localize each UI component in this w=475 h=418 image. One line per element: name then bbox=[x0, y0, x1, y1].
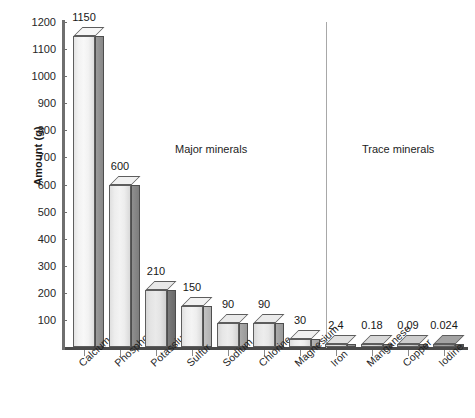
x-axis-label-iron: Iron bbox=[328, 347, 350, 368]
bar-sodium bbox=[217, 314, 239, 347]
bar-phosphorus bbox=[109, 176, 131, 348]
bar-front-face bbox=[217, 323, 239, 347]
bar-front-face bbox=[181, 306, 203, 347]
bar-value-label: 0.024 bbox=[416, 319, 472, 331]
bar-top-face bbox=[109, 176, 140, 185]
y-tick-label: 600 bbox=[18, 179, 56, 191]
bar-side-face bbox=[95, 36, 104, 347]
bar-side-face bbox=[347, 344, 356, 347]
bar-calcium bbox=[73, 27, 95, 347]
bar-front-face bbox=[145, 290, 167, 347]
bar-value-label: 150 bbox=[164, 281, 220, 293]
y-tick-label: 1000 bbox=[18, 70, 56, 82]
bar-iron bbox=[325, 335, 347, 347]
bar-top-face bbox=[325, 335, 356, 344]
bar-front-face bbox=[325, 344, 347, 347]
bar-top-face bbox=[73, 27, 104, 36]
mineral-amount-bar-chart: Amount (g) 12001100100090080070060050040… bbox=[0, 0, 475, 418]
bar-front-face bbox=[253, 323, 275, 347]
y-tick-label: 900 bbox=[18, 97, 56, 109]
caption-major-minerals: Major minerals bbox=[175, 143, 247, 155]
y-tick-label: 1200 bbox=[18, 16, 56, 28]
bar-value-label: 1150 bbox=[56, 11, 112, 23]
y-tick-label: 300 bbox=[18, 260, 56, 272]
x-axis-origin-cap bbox=[62, 344, 65, 350]
y-tick-label: 800 bbox=[18, 124, 56, 136]
y-tick-label: 200 bbox=[18, 287, 56, 299]
y-tick-label: 500 bbox=[18, 206, 56, 218]
bar-value-label: 210 bbox=[128, 265, 184, 277]
y-tick-label: 700 bbox=[18, 151, 56, 163]
bar-value-label: 600 bbox=[92, 160, 148, 172]
y-tick-label: 1100 bbox=[18, 43, 56, 55]
bar-value-label: 90 bbox=[236, 298, 292, 310]
y-axis-line bbox=[62, 20, 65, 350]
caption-trace-minerals: Trace minerals bbox=[362, 143, 434, 155]
y-tick-label: 400 bbox=[18, 233, 56, 245]
bar-top-face bbox=[217, 314, 248, 323]
group-divider bbox=[326, 22, 327, 348]
bar-front-face bbox=[73, 36, 95, 347]
y-tick-label: 100 bbox=[18, 314, 56, 326]
